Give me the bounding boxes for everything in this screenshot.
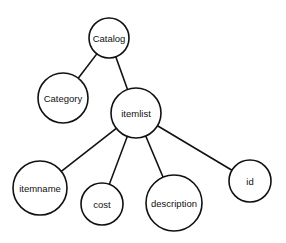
edge-itemlist-id [157, 126, 231, 170]
node-label: cost [93, 199, 111, 210]
node-label: id [246, 176, 253, 187]
node-description: description [146, 175, 202, 231]
edge-catalog-itemlist [116, 57, 128, 90]
nodes: CatalogCategoryitemlistitemnamecostdescr… [13, 18, 271, 231]
node-itemname: itemname [13, 161, 67, 215]
edge-catalog-category [78, 54, 97, 78]
node-cost: cost [81, 183, 123, 225]
edge-itemlist-description [146, 136, 163, 177]
node-itemlist: itemlist [111, 88, 161, 138]
node-label: itemname [19, 183, 61, 194]
edge-itemlist-cost [109, 136, 127, 184]
node-label: itemlist [121, 108, 151, 119]
node-label: description [151, 198, 197, 209]
node-id: id [229, 160, 271, 202]
edge-itemlist-itemname [61, 128, 116, 171]
node-catalog: Catalog [89, 18, 129, 58]
tree-diagram: CatalogCategoryitemlistitemnamecostdescr… [0, 0, 286, 243]
node-label: Category [44, 93, 83, 104]
node-category: Category [38, 73, 88, 123]
node-label: Catalog [93, 33, 126, 44]
